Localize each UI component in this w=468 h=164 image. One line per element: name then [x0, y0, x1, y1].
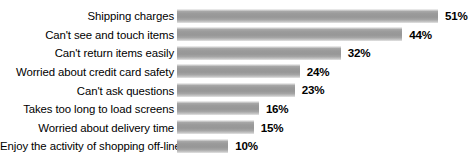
bar-row: Can't return items easily 32%	[0, 44, 468, 63]
category-label: Enjoy the activity of shopping off-line	[0, 139, 174, 153]
bar-area: 16%	[177, 101, 288, 115]
bar-row: Worried about credit card safety 24%	[0, 63, 468, 82]
bar	[177, 120, 254, 134]
bar-row: Can't ask questions 23%	[0, 81, 468, 100]
bar-area: 10%	[177, 139, 258, 153]
bar-area: 24%	[177, 64, 329, 78]
category-label: Shipping charges	[0, 9, 174, 23]
category-label: Worried about credit card safety	[0, 65, 174, 79]
bar-row: Worried about delivery time 15%	[0, 119, 468, 138]
bar-area: 51%	[177, 9, 468, 23]
bar-chart: Shipping charges 51% Can't see and touch…	[0, 0, 468, 164]
bar-row: Can't see and touch items 44%	[0, 26, 468, 45]
value-label: 32%	[348, 46, 371, 59]
value-label: 44%	[409, 28, 432, 41]
value-label: 23%	[302, 83, 325, 96]
bar-row: Shipping charges 51%	[0, 7, 468, 26]
bar-row: Takes too long to load screens 16%	[0, 100, 468, 119]
value-label: 10%	[235, 139, 258, 152]
value-label: 51%	[445, 9, 468, 22]
bar	[177, 139, 228, 153]
category-label: Worried about delivery time	[0, 121, 174, 135]
bar	[177, 83, 295, 97]
value-label: 15%	[261, 121, 284, 134]
bar-row: Enjoy the activity of shopping off-line …	[0, 137, 468, 156]
bar-chart-rows: Shipping charges 51% Can't see and touch…	[0, 7, 468, 156]
category-label: Can't ask questions	[0, 84, 174, 98]
bar	[177, 9, 438, 23]
value-label: 24%	[307, 65, 330, 78]
bar	[177, 46, 341, 60]
category-label: Can't return items easily	[0, 46, 174, 60]
bar-area: 44%	[177, 27, 432, 41]
category-label: Takes too long to load screens	[0, 102, 174, 116]
bar-area: 15%	[177, 120, 283, 134]
category-label: Can't see and touch items	[0, 28, 174, 42]
bar	[177, 27, 402, 41]
bar	[177, 64, 300, 78]
bar-area: 32%	[177, 46, 370, 60]
bar	[177, 101, 259, 115]
bar-area: 23%	[177, 83, 324, 97]
value-label: 16%	[266, 102, 289, 115]
